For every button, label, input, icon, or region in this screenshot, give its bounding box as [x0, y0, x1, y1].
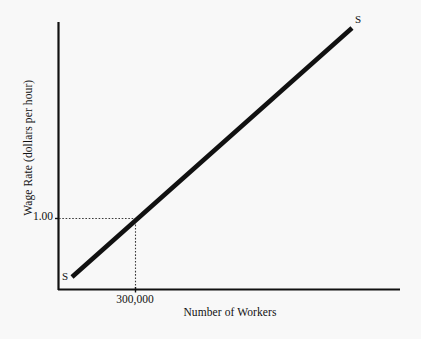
x-axis-tick-label-workers: 300,000 [105, 294, 165, 306]
x-axis-title: Number of Workers [150, 307, 310, 319]
supply-curve-line [72, 28, 352, 277]
chart-plot-area [0, 0, 421, 339]
supply-curve-label-lower: S [62, 271, 68, 282]
y-axis-tick-label-wage: 1.00 [0, 211, 53, 223]
supply-curve-chart: Wage Rate (dollars per hour) Number of W… [0, 0, 421, 339]
supply-curve-label-upper: S [355, 14, 361, 25]
